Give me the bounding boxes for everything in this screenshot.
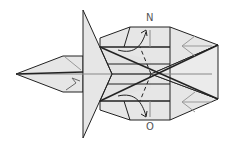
label-o: O <box>146 122 154 132</box>
origami-diagram: N O <box>0 0 238 147</box>
label-n: N <box>146 13 153 23</box>
fold-diagram-svg <box>0 0 238 147</box>
